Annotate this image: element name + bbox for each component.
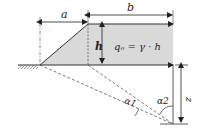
load-formula: qₒ = γ · h (114, 41, 161, 52)
b-label: b (127, 1, 134, 14)
alpha2-arc (160, 106, 173, 114)
alpha1-label: α1 (123, 95, 138, 108)
ground-hatch (18, 65, 38, 69)
ray-from-toe (40, 65, 173, 124)
alpha1-arc (135, 109, 139, 116)
z-label: z (184, 96, 195, 103)
a-label: a (61, 8, 68, 21)
alpha2-label: α2 (157, 96, 169, 106)
h-label: h (95, 40, 103, 53)
embankment-load-diagram: a b h qₒ = γ · h z α2 α1 (0, 0, 198, 140)
ray-from-crest (88, 65, 173, 124)
